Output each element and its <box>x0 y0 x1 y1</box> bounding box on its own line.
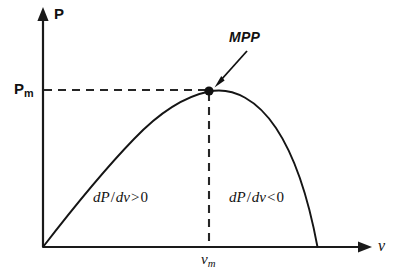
vm-tick-subscript: m <box>208 257 216 269</box>
x-axis-label: v <box>378 238 385 254</box>
mpp-annotation-label: MPP <box>229 30 260 44</box>
x-axis-arrowhead <box>358 241 372 252</box>
right-region-value: 0 <box>276 189 284 205</box>
pv-curve-figure: P v Pm vm MPP dP/dv>0 dP/dv<0 <box>0 0 401 280</box>
figure-canvas <box>0 0 401 280</box>
right-region-derivative-label: dP/dv<0 <box>229 190 284 205</box>
left-region-value: 0 <box>140 189 148 205</box>
pm-tick-base: P <box>14 80 24 97</box>
pm-tick-subscript: m <box>24 87 34 99</box>
pm-tick-label: Pm <box>14 81 34 99</box>
left-region-numerator: dP <box>93 189 110 205</box>
y-axis-arrowhead <box>37 7 48 21</box>
vm-tick-base: v <box>201 251 208 267</box>
left-region-operator: > <box>130 189 140 205</box>
right-region-numerator: dP <box>229 189 246 205</box>
left-region-denominator: dv <box>116 189 130 205</box>
right-region-operator: < <box>266 189 276 205</box>
mpp-point-marker <box>204 86 213 95</box>
right-region-denominator: dv <box>252 189 266 205</box>
mpp-callout-line <box>221 51 247 80</box>
left-region-derivative-label: dP/dv>0 <box>93 190 148 205</box>
y-axis-label: P <box>54 6 64 21</box>
pv-characteristic-curve <box>43 91 318 247</box>
vm-tick-label: vm <box>201 252 215 269</box>
